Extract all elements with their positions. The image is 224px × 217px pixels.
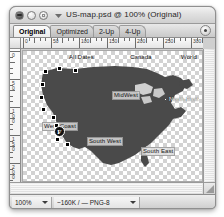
vertical-scrollbar[interactable] (203, 49, 215, 182)
region-label-all-dates[interactable]: All Dates (69, 54, 94, 61)
document-area: 050100150200250300 050100150200 All Date… (10, 38, 215, 194)
zoom-level-value: 100% (15, 199, 39, 206)
ruler-tick (180, 38, 181, 41)
tab-optimized[interactable]: Optimized (50, 25, 94, 37)
ruler-tick (185, 38, 186, 41)
chevron-down-icon (130, 201, 136, 204)
panel-menu-button[interactable] (200, 25, 211, 36)
ruler-tick (68, 38, 69, 41)
path-anchor-point[interactable] (73, 68, 78, 73)
ruler-tick (29, 38, 30, 41)
frame-badge-f[interactable]: F (54, 126, 65, 137)
ruler-tick (10, 180, 13, 181)
united-states-map (23, 51, 203, 182)
imageready-document-window: US-map.psd @ 100% (Original) Original Op… (9, 6, 216, 209)
ruler-tick (96, 38, 97, 41)
path-anchor-point[interactable] (65, 142, 70, 147)
path-anchor-point[interactable] (57, 66, 62, 71)
ruler-tick (10, 73, 13, 74)
ruler-tick (73, 38, 74, 41)
path-anchor-point[interactable] (55, 137, 60, 142)
ruler-origin-box[interactable] (10, 38, 21, 49)
path-anchor-point[interactable] (39, 95, 44, 100)
ruler-tick (40, 38, 41, 41)
ruler-tick (57, 38, 58, 41)
ruler-tick (129, 38, 130, 41)
ruler-tick (124, 38, 125, 41)
window-title: US-map.psd @ 100% (Original) (66, 7, 211, 23)
ruler-tick (10, 113, 13, 114)
ruler-tick (10, 90, 15, 91)
path-anchor-point[interactable] (43, 69, 48, 74)
ruler-tick (10, 118, 15, 119)
image-canvas[interactable]: All Dates Canada World MidWest North Eas… (22, 50, 203, 182)
ruler-label: 200 (11, 165, 16, 180)
vertical-ruler[interactable]: 050100150200 (10, 49, 21, 182)
horizontal-scrollbar[interactable] (10, 182, 203, 194)
ruler-tick (197, 38, 198, 41)
zoom-level-menu[interactable]: 100% (12, 197, 52, 208)
ruler-label: 0 (23, 38, 28, 44)
region-label-north-east[interactable]: North East (169, 96, 198, 103)
window-titlebar[interactable]: US-map.psd @ 100% (Original) (10, 7, 215, 24)
view-tab-bar: Original Optimized 2-Up 4-Up (10, 24, 215, 38)
ruler-tick (10, 68, 13, 69)
region-label-south-west[interactable]: South West (87, 137, 123, 146)
tab-4-up[interactable]: 4-Up (119, 25, 146, 37)
ruler-tick (10, 96, 13, 97)
region-label-mid-west[interactable]: MidWest (112, 91, 140, 100)
ruler-tick (141, 38, 142, 41)
ruler-tick (10, 157, 13, 158)
ruler-tick (202, 38, 203, 43)
ruler-tick (157, 38, 158, 41)
ruler-tick (146, 38, 147, 43)
ruler-tick (10, 129, 13, 130)
ruler-tick (118, 38, 119, 43)
ruler-tick (34, 38, 35, 43)
status-bar: 100% ~160K / — PNG-8 (10, 194, 215, 209)
horizontal-ruler[interactable]: 050100150200250300 (21, 38, 203, 49)
ruler-tick (10, 85, 13, 86)
region-label-canada[interactable]: Canada (130, 54, 152, 61)
ruler-tick (10, 57, 13, 58)
region-label-world[interactable]: World (181, 54, 197, 61)
minimize-button[interactable] (27, 11, 36, 20)
ruler-label: 150 (11, 137, 16, 152)
ruler-tick (101, 38, 102, 41)
ruler-tick (152, 38, 153, 41)
ruler-tick (169, 38, 170, 41)
ruler-tick (10, 146, 15, 147)
zoom-button[interactable] (39, 11, 48, 20)
file-info-value: ~160K / — PNG-8 (57, 199, 127, 206)
ruler-label: 100 (11, 109, 16, 124)
ruler-tick (10, 169, 13, 170)
ruler-tick (90, 38, 91, 43)
close-button[interactable] (15, 11, 24, 20)
ruler-tick (10, 62, 15, 63)
window-controls (15, 11, 48, 20)
ruler-tick (113, 38, 114, 41)
vertical-scroll-track[interactable] (205, 50, 214, 181)
tab-2-up[interactable]: 2-Up (93, 25, 120, 37)
north-east-point-marker (164, 98, 167, 101)
ruler-tick (62, 38, 63, 43)
ruler-tick (10, 152, 13, 153)
resize-grip[interactable] (203, 182, 215, 194)
chevron-down-icon (42, 201, 48, 204)
ruler-tick (85, 38, 86, 41)
path-anchor-point[interactable] (41, 107, 46, 112)
ruler-tick (10, 101, 13, 102)
path-anchor-point[interactable] (40, 82, 45, 87)
document-proxy-icon (54, 11, 63, 20)
ruler-tick (45, 38, 46, 41)
tab-original[interactable]: Original (13, 25, 51, 37)
ruler-tick (10, 141, 13, 142)
horizontal-scroll-track[interactable] (11, 184, 202, 193)
ruler-tick (10, 124, 13, 125)
optimization-info-menu[interactable]: ~160K / — PNG-8 (54, 197, 140, 208)
ruler-tick (10, 174, 15, 175)
ruler-tick (174, 38, 175, 43)
path-anchor-point[interactable] (51, 115, 56, 120)
region-label-south-east[interactable]: South East (141, 147, 175, 156)
